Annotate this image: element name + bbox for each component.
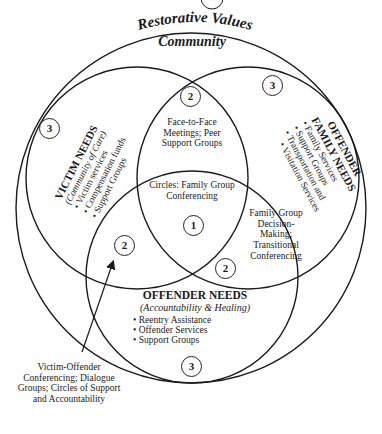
- level-badge-victim-family: 2: [180, 86, 201, 107]
- level-badge-family-offender: 2: [215, 258, 236, 279]
- center-overlap-text: Circles: Family Group Conferencing: [147, 180, 237, 201]
- offender-needs-subheading: (Accountability & Healing): [120, 302, 270, 313]
- offender-circle: [86, 171, 298, 383]
- offender-needs-list: Reentry Assistance Offender Services Sup…: [133, 315, 211, 345]
- overlap-victim-offender-text: Victim-Offender Conferencing; Dialogue G…: [14, 362, 124, 405]
- level-badge-offender: 3: [181, 356, 202, 377]
- list-item: Reentry Assistance: [133, 315, 211, 325]
- community-label: Community: [130, 34, 254, 50]
- level-badge-victim: 3: [39, 118, 60, 139]
- top-marker-circle: [201, 0, 223, 9]
- overlap-family-offender-text: Family Group Decision-Making; Transition…: [244, 208, 308, 261]
- overlap-victim-family-text: Face-to-Face Meetings; Peer Support Grou…: [158, 117, 226, 149]
- level-badge-offender-family: 3: [262, 75, 283, 96]
- offender-needs-heading: OFFENDER NEEDS: [120, 289, 270, 302]
- title-restorative-values: Restorative Values: [134, 9, 254, 33]
- level-badge-victim-offender: 2: [114, 235, 135, 256]
- list-item: Offender Services: [133, 325, 211, 335]
- level-badge-center: 1: [183, 215, 204, 236]
- list-item: Support Groups: [133, 335, 211, 345]
